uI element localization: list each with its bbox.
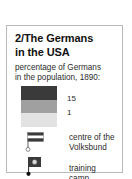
legend-symbol-row-training-camp: training camp (15, 156, 116, 179)
legend-symbol-label-volksbund: centre of the Volksbund (69, 133, 115, 153)
legend-symbol-label-volksbund-line-1: centre of the (69, 133, 115, 143)
page-title-line-1: 2/The Germans (15, 32, 116, 46)
legend-scale: 15 1 (15, 86, 116, 128)
legend-caption-line-1: percentage of Germans (15, 63, 116, 73)
legend-scale-labels: 15 1 (67, 86, 117, 127)
legend-symbol-row-volksbund: centre of the Volksbund (15, 131, 116, 156)
legend-scale-band-high (21, 86, 57, 100)
page-title-line-2: in the USA (15, 46, 116, 60)
legend-symbol-label-volksbund-line-2: Volksbund (69, 143, 115, 153)
map-legend-page: 2/The Germans in the USA percentage of G… (0, 0, 132, 179)
legend-scale-label-low: 1 (67, 108, 71, 117)
map-key-box: 2/The Germans in the USA percentage of G… (6, 25, 123, 173)
legend-symbol-label-training-camp-line-1: training camp (69, 164, 116, 179)
legend-scale-label-high: 15 (67, 94, 76, 103)
legend-symbol-label-training-camp: training camp (69, 164, 116, 179)
map-key-inner: 2/The Germans in the USA percentage of G… (7, 26, 122, 172)
legend-scale-band-low (21, 113, 57, 127)
camp-marker-icon (23, 156, 49, 179)
legend-scale-swatch (21, 86, 57, 127)
legend-caption: percentage of Germans in the population,… (15, 63, 116, 83)
flag-marker-icon (23, 131, 49, 155)
legend-caption-line-2: in the population, 1890: (15, 73, 116, 83)
page-title: 2/The Germans in the USA (15, 32, 116, 59)
legend-scale-band-mid (21, 100, 57, 114)
